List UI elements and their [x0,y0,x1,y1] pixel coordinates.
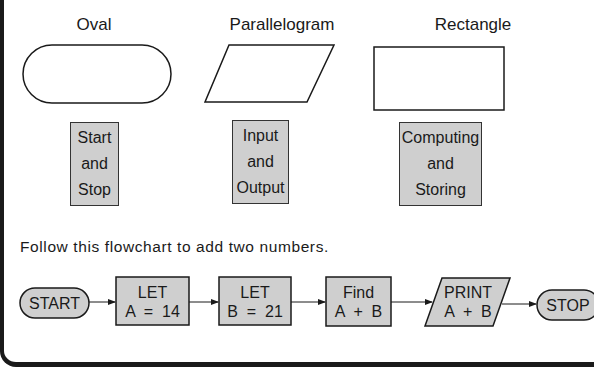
oval-label: Oval [77,15,112,35]
step-line: A + B [444,302,492,321]
purpose-line: Stop [78,177,111,203]
purpose-line: and [427,151,454,177]
step-line: LET [138,283,167,302]
stop-text: STOP [546,296,589,315]
rectangle-symbol [374,47,504,110]
parallelogram-label: Parallelogram [230,15,335,35]
purpose-line: Start [78,125,112,151]
flow-step-1-text: LET A = 14 [116,279,189,325]
step-line: Find [343,283,374,302]
purpose-line: and [247,149,274,175]
rectangle-label: Rectangle [435,15,512,35]
flow-step-2-text: LET B = 21 [219,279,291,325]
instruction-text: Follow this flowchart to add two numbers… [20,238,329,256]
flow-step-4-text: PRINT A + B [430,279,506,325]
oval-purpose-box: Start and Stop [70,122,119,206]
flow-start-label: START [20,288,89,318]
flow-stop-label: STOP [537,290,594,320]
step-line: B = 21 [227,302,283,321]
purpose-line: and [81,151,108,177]
purpose-line: Input [243,123,279,149]
step-line: PRINT [444,283,492,302]
oval-symbol [23,45,171,103]
start-text: START [29,294,80,313]
parallelogram-purpose-box: Input and Output [232,120,289,204]
flow-step-3-text: Find A + B [326,279,391,325]
parallelogram-symbol [205,45,334,102]
step-line: A + B [335,302,383,321]
rectangle-purpose-box: Computing and Storing [399,122,482,206]
step-line: A = 14 [125,302,180,321]
purpose-line: Output [236,175,284,201]
step-line: LET [240,283,269,302]
purpose-line: Storing [415,177,466,203]
purpose-line: Computing [402,125,479,151]
